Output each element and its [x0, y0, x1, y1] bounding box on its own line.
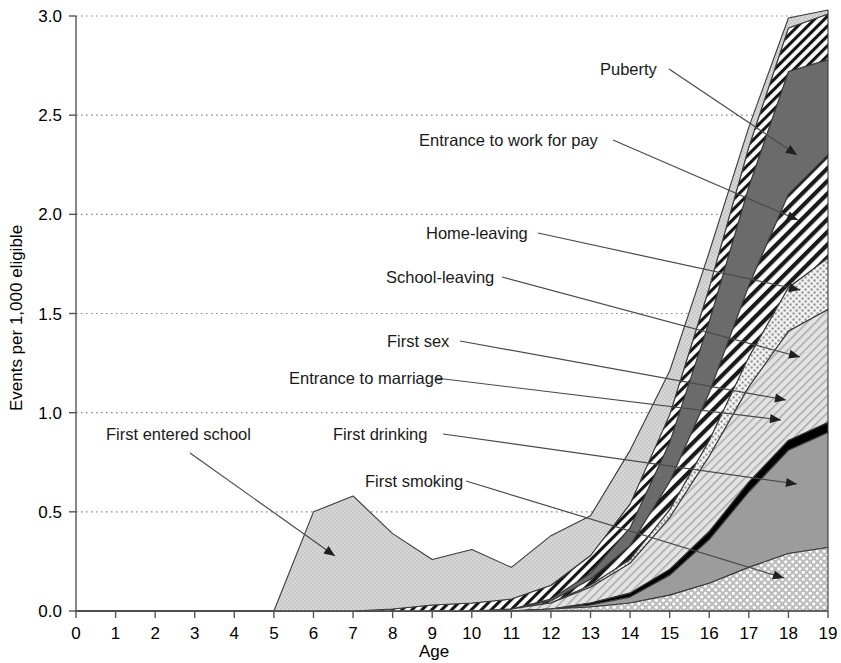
x-tick-label: 11 [503, 624, 521, 643]
x-tick-label: 15 [660, 624, 679, 643]
y-tick-label: 2.0 [38, 205, 62, 224]
x-tick-label: 2 [150, 624, 159, 643]
annotation-label: Entrance to work for pay [419, 131, 599, 149]
annotation-label: First sex [387, 332, 450, 350]
x-tick-label: 14 [621, 624, 640, 643]
y-tick-label: 0.0 [38, 602, 62, 621]
y-tick-label: 3.0 [38, 7, 62, 26]
annotation-label: First drinking [333, 425, 427, 443]
x-tick-label: 3 [190, 624, 199, 643]
x-tick-label: 8 [388, 624, 397, 643]
y-tick-label: 1.5 [38, 305, 62, 324]
x-tick-label: 18 [779, 624, 798, 643]
y-tick-label: 2.5 [38, 106, 62, 125]
annotation-leader-line [190, 453, 335, 556]
x-tick-label: 12 [541, 624, 560, 643]
x-tick-label: 1 [111, 624, 120, 643]
annotation-label: Home-leaving [426, 224, 528, 242]
y-tick-label: 0.5 [38, 503, 62, 522]
x-tick-label: 13 [581, 624, 600, 643]
stacked-area-chart: 0123456789101112131415161718190.00.51.01… [0, 0, 841, 663]
x-axis-title: Age [419, 642, 449, 661]
x-tick-label: 6 [309, 624, 318, 643]
annotation-label: School-leaving [386, 268, 494, 286]
y-tick-label: 1.0 [38, 404, 62, 423]
y-axis-title: Events per 1,000 eligible [7, 225, 26, 411]
x-tick-label: 19 [819, 624, 838, 643]
x-tick-label: 5 [269, 624, 278, 643]
x-tick-label: 9 [427, 624, 436, 643]
annotation-label: First smoking [365, 472, 463, 490]
annotation-label: Puberty [600, 60, 658, 78]
x-tick-label: 17 [739, 624, 758, 643]
x-tick-label: 4 [230, 624, 239, 643]
x-tick-label: 0 [71, 624, 80, 643]
annotation-label: Entrance to marriage [289, 369, 443, 387]
x-tick-label: 10 [462, 624, 481, 643]
x-tick-label: 7 [348, 624, 357, 643]
chart-container: 0123456789101112131415161718190.00.51.01… [0, 0, 841, 663]
annotation-label: First entered school [106, 425, 251, 443]
annotation-labels: PubertyEntrance to work for payHome-leav… [106, 60, 658, 490]
x-tick-label: 16 [700, 624, 719, 643]
